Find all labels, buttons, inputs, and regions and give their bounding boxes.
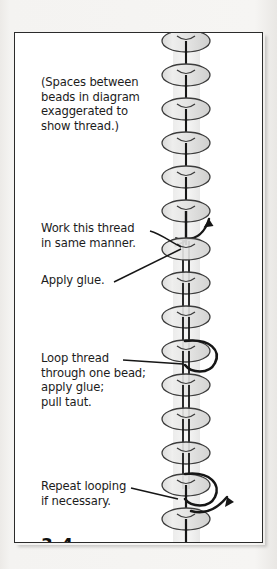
caption-apply-glue: Apply glue.: [41, 273, 161, 288]
caption-spaces-note: (Spaces between beads in diagram exagger…: [41, 75, 171, 133]
bead: [162, 442, 210, 464]
caption-loop-thread: Loop thread through one bead; apply glue…: [41, 351, 177, 409]
caption-work-thread: Work this thread in same manner.: [41, 221, 175, 250]
caption-repeat-looping: Repeat looping if necessary.: [41, 479, 171, 508]
figure-page: (Spaces between beads in diagram exagger…: [0, 0, 277, 569]
arrow-upper-thread: [204, 219, 214, 228]
bead: [162, 408, 210, 430]
figure-number: 3–4: [41, 535, 73, 543]
figure-frame: (Spaces between beads in diagram exagger…: [14, 32, 263, 543]
bead: [162, 306, 210, 328]
bead: [162, 272, 210, 294]
